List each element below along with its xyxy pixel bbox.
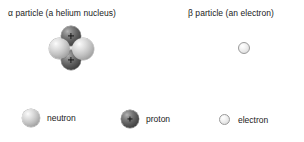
alpha-particle-caption: α particle (a helium nucleus) — [8, 8, 116, 18]
proton-sphere-icon — [121, 110, 139, 128]
legend-item-proton: proton — [121, 110, 170, 128]
legend-label-neutron: neutron — [47, 113, 76, 123]
legend: neutron proton electron — [0, 108, 304, 142]
legend-label-proton: proton — [146, 114, 170, 124]
electron-circle-icon — [219, 114, 230, 125]
electron-sphere-beta — [238, 42, 250, 54]
legend-item-neutron: neutron — [22, 109, 76, 127]
neutron-sphere-right — [72, 38, 94, 60]
particle-diagram: α particle (a helium nucleus) β particle… — [0, 0, 304, 142]
neutron-sphere-icon — [22, 109, 40, 127]
plus-sign-icon — [121, 110, 139, 128]
alpha-particle-cluster — [48, 26, 98, 76]
legend-item-electron: electron — [219, 114, 268, 125]
neutron-sphere-left — [49, 38, 70, 59]
legend-label-electron: electron — [238, 115, 268, 125]
beta-particle-caption: β particle (an electron) — [188, 8, 274, 18]
